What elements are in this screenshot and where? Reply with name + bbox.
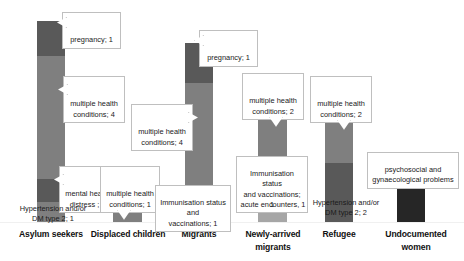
callout-pregnancy-migrants: pregnancy; 1 — [199, 30, 258, 67]
callout-label: pregnancy; 1 — [207, 53, 250, 62]
category-label-text: Undocumented women — [385, 229, 446, 252]
stacked-bar-chart: pregnancy; 1 multiple health conditions;… — [0, 0, 464, 261]
callout-multiple-health-newly-arrived: multiple health conditions; 2 — [242, 73, 304, 120]
callout-multiple-health-displaced: multiple health conditions; 1 — [100, 166, 160, 213]
category-label-text: Newly-arrived migrants — [245, 229, 300, 252]
bar-segment-pregnancy — [37, 21, 65, 56]
callout-psychosocial-gynaecological: psychosocial and gynaecological problems — [367, 152, 459, 189]
callout-multiple-health-asylum: multiple health conditions; 4 — [63, 76, 125, 123]
callout-hypertension-refugee: Hypertension and/or DM type 2; 2 — [300, 188, 392, 219]
callout-label: multiple health conditions; 2 — [317, 99, 365, 118]
callout-label: multiple health conditions; 1 — [106, 189, 154, 208]
callout-hypertension-asylum: Hypertension and/or DM type 2; 1 — [3, 194, 103, 225]
callout-label: multiple health conditions; 4 — [70, 99, 118, 118]
callout-label: pregnancy; 1 — [70, 35, 113, 44]
category-label-text: Asylum seekers — [19, 229, 83, 239]
bar-segment-multiple-health-conditions — [37, 56, 65, 179]
callout-pregnancy-asylum: pregnancy; 1 — [62, 12, 121, 49]
category-label-text: Refugee — [322, 229, 355, 239]
category-label-newly-arrived-migrants: Newly-arrived migrants — [231, 228, 315, 253]
callout-label: psychosocial and gynaecological problems — [372, 165, 453, 184]
callout-label: multiple health conditions; 2 — [249, 96, 297, 115]
category-label-refugee: Refugee — [306, 228, 372, 241]
callout-label: Immunisation status and vaccinations; 1 — [160, 198, 226, 227]
callout-label: Hypertension and/or DM type 2; 2 — [313, 198, 380, 217]
category-label-undocumented-women: Undocumented women — [373, 228, 459, 253]
callout-label: Hypertension and/or DM type 2; 1 — [20, 204, 87, 223]
callout-immunisation-migrants: Immunisation status and vaccinations; 1 — [155, 185, 231, 232]
callout-multiple-health-migrants: multiple health conditions; 4 — [131, 104, 193, 151]
callout-label: acute encounters, 1 — [241, 200, 306, 209]
callout-multiple-health-refugee: multiple health conditions; 2 — [310, 76, 372, 123]
callout-label: multiple health conditions; 4 — [138, 127, 186, 146]
